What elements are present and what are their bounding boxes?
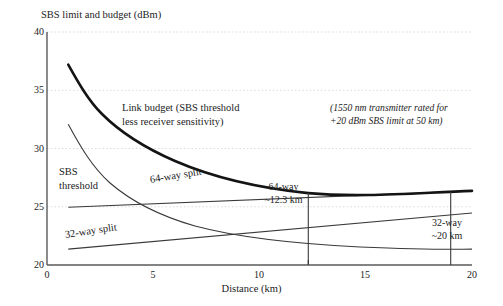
x-tick-5: 5 <box>133 269 173 280</box>
chart-plot-area <box>0 0 503 306</box>
transmitter-note: (1550 nm transmitter rated for +20 dBm S… <box>330 102 448 128</box>
x-tick-15: 15 <box>345 269 385 280</box>
y-tick-40: 40 <box>14 26 44 37</box>
series-curve-link-budget <box>68 65 472 195</box>
callout-64-way: 64-way ~12.3 km <box>255 180 312 206</box>
x-tick-0: 0 <box>27 269 67 280</box>
series-line-32-way-split <box>68 213 472 249</box>
y-tick-25: 25 <box>14 201 44 212</box>
series-label-sbs-threshold: SBS threshold <box>59 165 98 192</box>
chart-title: SBS limit and budget (dBm) <box>41 9 161 21</box>
x-axis-title: Distance (km) <box>0 283 503 295</box>
y-tick-35: 35 <box>14 84 44 95</box>
x-tick-10: 10 <box>239 269 279 280</box>
callout-32-way: 32-way ~20 km <box>423 216 471 242</box>
chart-figure: SBS limit and budget (dBm) 40 35 30 25 2… <box>0 0 503 306</box>
x-tick-20: 20 <box>452 269 492 280</box>
series-label-link-budget: Link budget (SBS threshold less receiver… <box>122 101 240 129</box>
y-tick-30: 30 <box>14 143 44 154</box>
